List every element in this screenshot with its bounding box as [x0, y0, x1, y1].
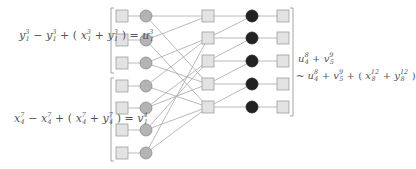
input-square-node	[116, 57, 128, 69]
right-equation-top: u84 + v95	[298, 54, 334, 64]
gray-circle-node	[140, 57, 152, 69]
output-square-node	[277, 10, 289, 22]
edge-hidden	[146, 38, 208, 153]
gray-circle-node	[140, 80, 152, 92]
middle-square-node	[202, 55, 214, 67]
input-square-node	[116, 124, 128, 136]
gray-circle-node	[140, 147, 152, 159]
black-circle-node	[246, 55, 258, 67]
middle-square-node	[202, 78, 214, 90]
output-square-node	[277, 32, 289, 44]
black-circle-node	[246, 101, 258, 113]
edge-hidden	[146, 38, 208, 86]
edge-output	[208, 61, 252, 84]
bracket-right	[290, 8, 293, 116]
black-circle-node	[246, 10, 258, 22]
black-circle-node	[246, 32, 258, 44]
left-equation-top: y31 − y31 + ( x31 + y31 ) = u31	[19, 30, 154, 41]
middle-square-node	[202, 101, 214, 113]
middle-square-node	[202, 10, 214, 22]
left-equation-bottom: x74 − x74 + ( x74 + y74 ) = v41	[14, 113, 148, 124]
input-square-node	[116, 80, 128, 92]
edge-output	[208, 38, 252, 61]
black-circle-node	[246, 78, 258, 90]
edge-hidden	[146, 107, 208, 130]
gray-circle-node	[140, 10, 152, 22]
input-square-node	[116, 147, 128, 159]
output-square-node	[277, 55, 289, 67]
edge-hidden	[146, 61, 208, 108]
edge-output	[208, 16, 252, 38]
edge-hidden	[146, 16, 208, 40]
right-equation-bottom: ~ u84 + v95 + ( x128 + y128 )	[296, 71, 416, 81]
middle-square-node	[202, 32, 214, 44]
output-square-node	[277, 101, 289, 113]
input-square-node	[116, 10, 128, 22]
output-square-node	[277, 78, 289, 90]
edge-hidden	[146, 107, 208, 153]
edge-output	[208, 84, 252, 107]
